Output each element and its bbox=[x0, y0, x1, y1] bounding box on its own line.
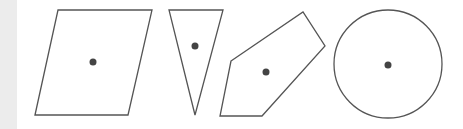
parallelogram-center-dot bbox=[90, 59, 97, 66]
pentagon-center-dot bbox=[263, 69, 270, 76]
pentagon-shape bbox=[220, 12, 325, 116]
triangle-shape bbox=[169, 10, 223, 115]
circle-center-dot bbox=[385, 62, 392, 69]
shapes-diagram bbox=[0, 0, 463, 129]
triangle-center-dot bbox=[192, 43, 199, 50]
